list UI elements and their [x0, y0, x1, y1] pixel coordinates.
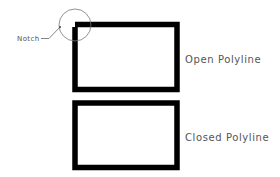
closed-polyline-label: Closed Polyline: [185, 132, 269, 143]
closed-polyline-shape: [75, 103, 177, 168]
closed-polyline: [75, 103, 177, 168]
polyline-diagram: Open Polyline Closed Polyline Notch: [0, 0, 280, 177]
notch-leader-line: [41, 27, 60, 39]
open-polyline-shape: [75, 25, 177, 90]
notch-leader-arrowhead: [59, 26, 61, 28]
open-polyline-label: Open Polyline: [185, 54, 261, 65]
notch-label: Notch: [17, 35, 40, 43]
open-polyline: [75, 25, 177, 90]
